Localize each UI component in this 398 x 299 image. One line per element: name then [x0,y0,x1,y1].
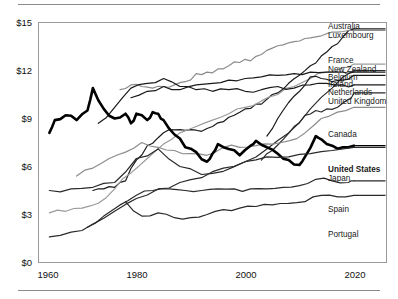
y-tick-9: $9 [2,113,32,124]
y-tick-12: $12 [2,65,32,76]
x-tick-1980: 1980 [117,269,157,280]
series-label-netherlands: Netherlands [328,88,372,97]
series-label-luxembourg: Luxembourg [328,31,374,40]
chart-figure: $15 $12 $9 $6 $3 $0 1960 1980 2000 2020 … [0,0,398,299]
series-label-portugal: Portugal [328,230,359,239]
series-label-japan: Japan [328,174,350,183]
series-label-canada: Canada [328,130,357,139]
series-label-spain: Spain [328,205,349,214]
y-tick-15: $15 [2,17,32,28]
series-label-australia: Australia [328,22,360,31]
y-tick-6: $6 [2,161,32,172]
x-tick-1960: 1960 [28,269,68,280]
series-label-united-kingdom: United Kingdom [328,97,386,106]
x-tick-2020: 2020 [335,269,375,280]
series-label-france: France [328,56,353,65]
line-chart-plot [0,0,398,299]
x-tick-2000: 2000 [226,269,266,280]
series-label-united-states: United States [328,165,380,174]
y-tick-3: $3 [2,209,32,220]
y-tick-0: $0 [2,257,32,268]
